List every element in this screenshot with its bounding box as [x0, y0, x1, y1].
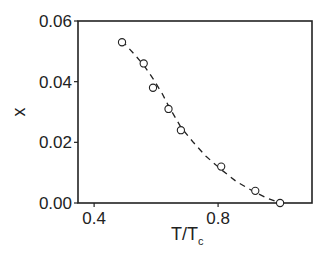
x-tick-label: 0.4 — [82, 209, 106, 228]
open-circle-marker — [118, 39, 125, 46]
x-axis-label-subscript: c — [198, 235, 204, 247]
y-axis-ticks: 0.000.020.040.06 — [39, 12, 78, 213]
open-circle-marker — [276, 199, 283, 206]
y-tick-label: 0.02 — [39, 133, 72, 152]
x-tick-label: 0.8 — [206, 209, 230, 228]
open-circle-marker — [177, 127, 184, 134]
x-axis-label: T/Tc — [171, 224, 204, 247]
plot-border — [78, 21, 312, 203]
open-circle-marker — [165, 105, 172, 112]
open-circle-marker — [252, 187, 259, 194]
y-tick-label: 0.04 — [39, 73, 72, 92]
data-markers — [118, 39, 283, 207]
x-axis-ticks: 0.40.8 — [82, 203, 230, 228]
y-tick-label: 0.06 — [39, 12, 72, 31]
chart: 0.40.8 0.000.020.040.06 x T/Tc — [0, 0, 322, 257]
open-circle-marker — [149, 84, 156, 91]
y-axis-label: x — [9, 108, 29, 117]
open-circle-marker — [140, 60, 147, 67]
x-axis-label-main: T/T — [171, 224, 198, 244]
open-circle-marker — [218, 163, 225, 170]
y-tick-label: 0.00 — [39, 194, 72, 213]
plot-frame — [78, 21, 312, 203]
